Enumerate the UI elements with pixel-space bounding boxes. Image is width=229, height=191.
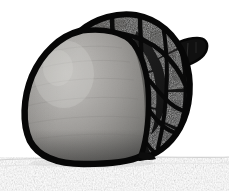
image-canvas: Acorn Black and white illustration of an…: [0, 0, 229, 191]
acorn-illustration: [0, 0, 229, 191]
